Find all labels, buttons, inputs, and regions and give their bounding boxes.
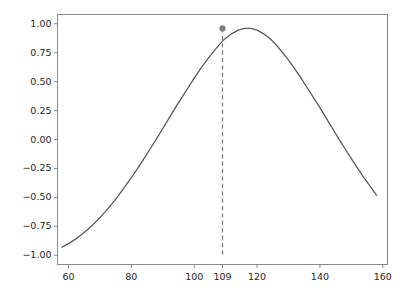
x-tick-label: 100 xyxy=(185,272,203,282)
y-tick-label: 1.00 xyxy=(30,19,51,29)
y-tick-label: 0.00 xyxy=(30,135,51,145)
y-tick-label: −0.25 xyxy=(22,164,51,174)
peak-point-marker xyxy=(219,25,225,31)
x-tick-label: 140 xyxy=(311,272,329,282)
y-tick-label: 0.25 xyxy=(30,106,51,116)
x-tick-label: 109 xyxy=(213,272,231,282)
x-tick-label: 120 xyxy=(248,272,266,282)
x-tick-label: 80 xyxy=(125,272,137,282)
chart-figure: 1.000.750.500.250.00−0.25−0.50−0.75−1.00… xyxy=(0,0,412,302)
plot-canvas xyxy=(0,0,412,302)
x-tick-label: 160 xyxy=(374,272,392,282)
x-tick-label: 60 xyxy=(62,272,74,282)
y-tick-label: 0.50 xyxy=(30,77,51,87)
y-tick-label: −0.50 xyxy=(22,193,51,203)
y-tick-label: −0.75 xyxy=(22,222,51,232)
y-tick-label: −1.00 xyxy=(22,250,51,260)
y-tick-label: 0.75 xyxy=(30,48,51,58)
